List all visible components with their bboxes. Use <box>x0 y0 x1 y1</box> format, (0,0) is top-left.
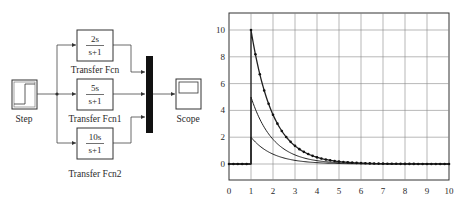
y-tick: 2 <box>221 132 226 142</box>
transfer-fcn-label: Transfer Fcn <box>71 65 120 75</box>
series-marker <box>395 163 398 166</box>
series-marker <box>448 163 451 166</box>
series-marker <box>281 130 284 133</box>
scope-icon <box>179 82 198 93</box>
x-tick: 8 <box>403 186 408 196</box>
series-marker <box>272 113 275 116</box>
series-marker <box>241 163 244 166</box>
series-marker <box>430 163 433 166</box>
series-marker <box>237 163 240 166</box>
step-label: Step <box>16 114 33 124</box>
series-marker <box>316 156 319 159</box>
series-marker <box>303 151 306 154</box>
transfer-fcn2-block[interactable]: 10s s+1 <box>77 128 113 159</box>
series-marker <box>426 163 429 166</box>
denominator: s+1 <box>88 47 101 57</box>
series-marker <box>373 162 376 165</box>
series-marker <box>417 163 420 166</box>
series-marker <box>289 141 292 144</box>
y-tick: 6 <box>221 79 226 89</box>
series-marker <box>333 160 336 163</box>
scope-label: Scope <box>176 114 199 124</box>
y-tick: 8 <box>221 52 226 62</box>
series-marker <box>245 163 248 166</box>
series-marker <box>298 148 301 151</box>
x-tick-labels: 012345678910 <box>227 186 454 196</box>
step-block[interactable] <box>12 80 37 109</box>
figure: Step 2s s+1 Transfer Fcn 5s <box>0 0 466 203</box>
x-tick: 9 <box>425 186 430 196</box>
x-tick: 7 <box>381 186 386 196</box>
series-marker <box>338 160 341 163</box>
x-tick: 5 <box>337 186 342 196</box>
series-marker <box>294 145 297 148</box>
series-marker <box>311 155 314 158</box>
y-tick: 10 <box>216 25 226 35</box>
series-marker <box>228 163 231 166</box>
series-marker <box>435 163 438 166</box>
x-tick: 0 <box>227 186 232 196</box>
series-marker <box>320 157 323 160</box>
series-marker <box>267 102 270 105</box>
x-tick: 3 <box>293 186 298 196</box>
series-marker <box>347 161 350 164</box>
series-marker <box>342 161 345 164</box>
x-tick: 2 <box>271 186 276 196</box>
transfer-fcn-block[interactable]: 2s s+1 <box>77 30 113 61</box>
y-tick: 0 <box>221 159 226 169</box>
numerator: 2s <box>91 34 100 44</box>
series-marker <box>413 163 416 166</box>
series-marker <box>399 163 402 166</box>
scope-plot: 0246810 012345678910 <box>216 13 454 196</box>
series-marker <box>355 162 358 165</box>
series-marker <box>443 163 446 166</box>
series-marker <box>250 29 253 32</box>
denominator: s+1 <box>88 145 101 155</box>
series-marker <box>404 163 407 166</box>
series-marker <box>263 89 266 92</box>
numerator: 5s <box>91 83 100 93</box>
series-marker <box>329 159 332 162</box>
series-marker <box>307 153 310 156</box>
series-marker <box>285 136 288 139</box>
series-marker <box>254 53 257 56</box>
x-tick: 1 <box>249 186 254 196</box>
transfer-fcn1-label: Transfer Fcn1 <box>68 114 121 124</box>
series-marker <box>360 162 363 165</box>
series-marker <box>408 163 411 166</box>
series-marker <box>325 158 328 161</box>
series-marker <box>377 162 380 165</box>
series-marker <box>421 163 424 166</box>
transfer-fcn1-block[interactable]: 5s s+1 <box>77 79 113 110</box>
block-diagram: Step 2s s+1 Transfer Fcn 5s <box>12 30 201 179</box>
series-marker <box>276 122 279 125</box>
series-marker <box>382 162 385 165</box>
mux-block[interactable] <box>146 56 153 133</box>
series-marker <box>351 161 354 164</box>
scope-block[interactable] <box>176 79 201 109</box>
y-tick: 4 <box>221 105 226 115</box>
denominator: s+1 <box>88 96 101 106</box>
series-marker <box>364 162 367 165</box>
series-marker <box>369 162 372 165</box>
transfer-fcn2-label: Transfer Fcn2 <box>68 169 121 179</box>
x-tick: 10 <box>445 186 455 196</box>
series-marker <box>259 73 262 76</box>
x-tick: 4 <box>315 186 320 196</box>
series-marker <box>386 162 389 165</box>
series-marker <box>391 162 394 165</box>
series-marker <box>232 163 235 166</box>
y-tick-labels: 0246810 <box>216 25 226 169</box>
branch-point <box>55 92 58 95</box>
numerator: 10s <box>89 132 102 142</box>
x-tick: 6 <box>359 186 364 196</box>
series-marker <box>439 163 442 166</box>
